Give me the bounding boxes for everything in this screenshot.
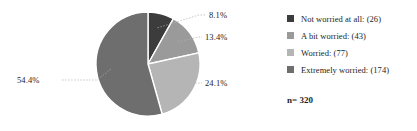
pie-plot-area: 8.1% 13.4% 24.1% 54.4% (0, 0, 280, 131)
pie-chart-figure: 8.1% 13.4% 24.1% 54.4% Not worried at al… (0, 0, 417, 131)
pie-svg (0, 0, 280, 131)
legend-item-label: Worried: (77) (301, 48, 348, 58)
slice-percent-label-2: 24.1% (205, 78, 227, 88)
slice-percent-label-3: 54.4% (17, 75, 39, 85)
pie-slices (96, 12, 200, 116)
slice-percent-label-0: 8.1% (209, 10, 227, 20)
sample-size-label: n= 320 (287, 95, 313, 105)
legend-item: Not worried at all: (26) (287, 10, 417, 27)
slice-percent-label-1: 13.4% (205, 32, 227, 42)
legend-item: A bit worried: (43) (287, 27, 417, 44)
legend-swatch-icon (287, 32, 294, 39)
legend-item: Worried: (77) (287, 44, 417, 61)
legend-item-label: Not worried at all: (26) (301, 14, 381, 24)
legend-item-label: Extremely worried: (174) (301, 65, 389, 75)
legend-swatch-icon (287, 49, 294, 56)
legend-swatch-icon (287, 66, 294, 73)
chart-legend: Not worried at all: (26) A bit worried: … (287, 10, 417, 78)
legend-item: Extremely worried: (174) (287, 61, 417, 78)
legend-item-label: A bit worried: (43) (301, 31, 366, 41)
legend-swatch-icon (287, 15, 294, 22)
